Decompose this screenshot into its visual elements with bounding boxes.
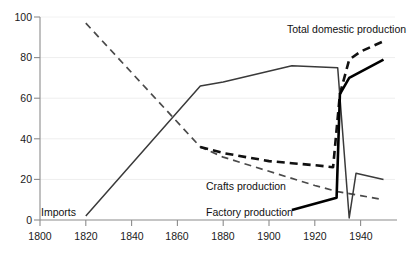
x-axis-label-1800: 1800	[21, 231, 59, 242]
y-axis-label-40: 40	[6, 134, 32, 145]
y-axis-label-0: 0	[6, 215, 32, 226]
series-annotation-total-domestic-production: Total domestic production	[287, 24, 406, 35]
x-axis-label-1860: 1860	[158, 231, 196, 242]
y-axis-label-100: 100	[6, 12, 32, 23]
x-axis-label-1880: 1880	[204, 231, 242, 242]
series-annotation-imports: Imports	[41, 207, 76, 218]
gridlines	[40, 17, 395, 179]
series-annotation-crafts-production: Crafts production	[206, 181, 286, 192]
series-line-crafts-production	[200, 41, 383, 167]
x-axis-label-1940: 1940	[342, 231, 380, 242]
chart-container: 100 80 60 40 20 0 1800 1820 1840 1860 18…	[0, 0, 411, 260]
y-axis-label-60: 60	[6, 93, 32, 104]
x-axis-label-1820: 1820	[67, 231, 105, 242]
series-line-factory-production	[292, 60, 384, 210]
series-annotation-factory-production: Factory production	[206, 207, 293, 218]
x-axis-label-1840: 1840	[113, 231, 151, 242]
x-axis-label-1920: 1920	[296, 231, 334, 242]
y-axis-label-20: 20	[6, 174, 32, 185]
y-axis-label-80: 80	[6, 52, 32, 63]
x-axis-label-1900: 1900	[250, 231, 288, 242]
chart-plot-area	[0, 0, 411, 260]
